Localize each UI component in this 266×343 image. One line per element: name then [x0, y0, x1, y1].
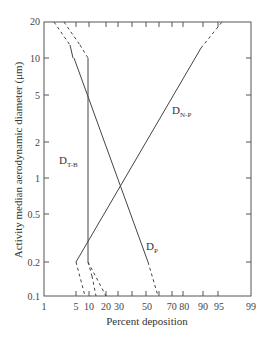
- label-dtb: D T-B: [59, 154, 78, 169]
- svg-text:10: 10: [84, 301, 94, 312]
- svg-text:T-B: T-B: [67, 161, 78, 169]
- svg-text:5: 5: [35, 90, 40, 101]
- label-dp: D P: [146, 240, 158, 255]
- x-axis-title: Percent deposition: [106, 315, 188, 327]
- plot-frame: [44, 22, 251, 296]
- svg-text:D: D: [146, 240, 154, 252]
- svg-text:99: 99: [246, 301, 256, 312]
- svg-text:D: D: [59, 154, 67, 166]
- x-axis-ticks: [76, 22, 218, 296]
- svg-text:0.5: 0.5: [28, 209, 41, 220]
- chart-canvas: 20 10 5 2 1 0.5 0.2 0.1 1 5 10 20 30 50 …: [0, 0, 266, 343]
- svg-text:90: 90: [198, 301, 208, 312]
- svg-text:20: 20: [101, 301, 111, 312]
- svg-text:2: 2: [35, 137, 40, 148]
- svg-text:1: 1: [35, 173, 40, 184]
- y-axis-title: Activity median aerodynamic diameter (μm…: [12, 61, 25, 258]
- svg-text:10: 10: [30, 53, 40, 64]
- svg-text:50: 50: [142, 301, 152, 312]
- svg-text:P: P: [154, 247, 158, 255]
- svg-text:30: 30: [114, 301, 124, 312]
- svg-text:0.1: 0.1: [28, 291, 41, 302]
- svg-text:20: 20: [30, 16, 40, 27]
- y-tick-labels: 20 10 5 2 1 0.5 0.2 0.1: [28, 16, 41, 302]
- y-axis-ticks: [44, 58, 251, 262]
- svg-text:1: 1: [42, 301, 47, 312]
- x-tick-labels: 1 5 10 20 30 50 70 80 90 95 99: [42, 301, 257, 312]
- svg-text:0.2: 0.2: [28, 257, 41, 268]
- svg-text:95: 95: [214, 301, 224, 312]
- series-dp: [74, 58, 158, 296]
- label-dnp: D N-P: [172, 104, 191, 119]
- svg-text:D: D: [172, 104, 180, 116]
- svg-text:5: 5: [74, 301, 79, 312]
- svg-text:70 80: 70 80: [167, 301, 190, 312]
- svg-text:N-P: N-P: [180, 111, 191, 119]
- series-dnp: [76, 22, 222, 296]
